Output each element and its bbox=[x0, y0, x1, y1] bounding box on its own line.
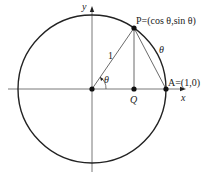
unit-circle-diagram: y x P=(cos θ,sin θ) A=(1,0) Q 1 θ θ bbox=[0, 0, 209, 175]
point-p bbox=[131, 25, 136, 30]
angle-arrow-icon bbox=[100, 77, 104, 81]
pa-chord bbox=[134, 28, 166, 89]
point-q-label: Q bbox=[130, 94, 138, 105]
point-p-label: P=(cos θ,sin θ) bbox=[136, 15, 196, 27]
y-axis-label: y bbox=[81, 1, 87, 12]
radius-label: 1 bbox=[108, 50, 113, 61]
x-axis-label: x bbox=[180, 92, 186, 103]
origin-point bbox=[89, 86, 94, 91]
y-axis-arrow-icon bbox=[90, 6, 94, 12]
radius-line bbox=[92, 28, 134, 89]
point-q bbox=[131, 86, 136, 91]
arc-theta-label: θ bbox=[159, 44, 164, 55]
point-a-label: A=(1,0) bbox=[168, 77, 200, 89]
angle-theta-label: θ bbox=[104, 74, 109, 85]
